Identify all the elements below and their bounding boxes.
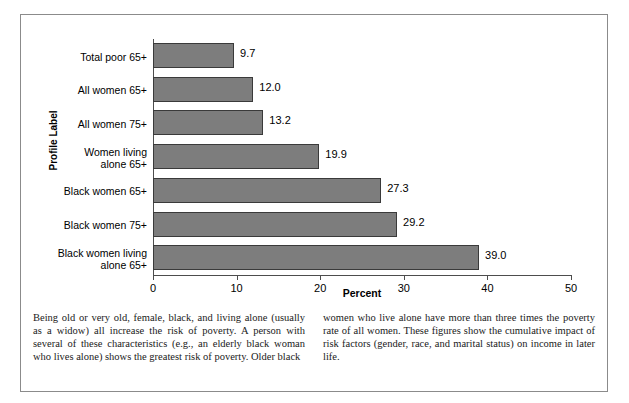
- category-label: All women 75+: [21, 118, 147, 131]
- bar-row: 29.2: [153, 208, 571, 242]
- plot-area: 9.712.013.219.927.329.239.001020304050: [153, 39, 571, 275]
- bar-row: 12.0: [153, 73, 571, 107]
- category-axis-labels: Total poor 65+All women 65+All women 75+…: [21, 39, 147, 275]
- category-label: Women livingalone 65+: [21, 146, 147, 171]
- x-axis-title: Percent: [153, 287, 571, 299]
- bar-value-label: 39.0: [485, 249, 506, 261]
- bar-value-label: 12.0: [259, 81, 280, 93]
- bar-value-label: 9.7: [240, 47, 255, 59]
- bar-chart: Profile Label Total poor 65+All women 65…: [21, 15, 607, 303]
- figure-frame: Profile Label Total poor 65+All women 65…: [20, 14, 608, 392]
- x-axis-tick-mark: [487, 276, 488, 280]
- x-axis-line: [153, 275, 572, 276]
- bar-row: 13.2: [153, 106, 571, 140]
- x-axis-tick-mark: [571, 276, 572, 280]
- bar-row: 39.0: [153, 241, 571, 275]
- bar: [153, 43, 234, 68]
- bar: [153, 77, 253, 102]
- bar: [153, 144, 319, 169]
- category-label: Black women livingalone 65+: [21, 247, 147, 272]
- category-label: All women 65+: [21, 84, 147, 97]
- bar: [153, 110, 263, 135]
- bar: [153, 178, 381, 203]
- caption-column-right: women who live alone have more than thre…: [323, 311, 595, 391]
- caption-column-left: Being old or very old, female, black, an…: [33, 311, 305, 391]
- bar-value-label: 19.9: [325, 148, 346, 160]
- bar: [153, 212, 397, 237]
- caption-block: Being old or very old, female, black, an…: [21, 311, 607, 391]
- bar-row: 27.3: [153, 174, 571, 208]
- bar-value-label: 27.3: [387, 182, 408, 194]
- bar-value-label: 29.2: [403, 216, 424, 228]
- x-axis-tick-mark: [153, 276, 154, 280]
- category-label: Black women 65+: [21, 185, 147, 198]
- bar-row: 9.7: [153, 39, 571, 73]
- bar-row: 19.9: [153, 140, 571, 174]
- bar-value-label: 13.2: [269, 114, 290, 126]
- x-axis-tick-mark: [237, 276, 238, 280]
- category-label: Black women 75+: [21, 219, 147, 232]
- bar: [153, 245, 479, 270]
- x-axis-tick-mark: [320, 276, 321, 280]
- x-axis-tick-mark: [404, 276, 405, 280]
- category-label: Total poor 65+: [21, 51, 147, 64]
